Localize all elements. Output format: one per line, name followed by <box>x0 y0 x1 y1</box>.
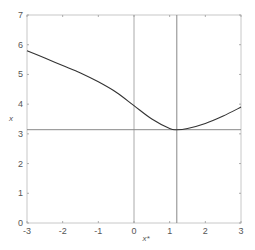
y-tick-label: 4 <box>18 99 23 109</box>
y-tick-label: 1 <box>18 188 23 198</box>
y-tick-label: 0 <box>18 218 23 228</box>
x-tick-label: 2 <box>203 226 208 236</box>
y-tick-label: 2 <box>18 159 23 169</box>
x-tick-label: -3 <box>23 226 31 236</box>
x-tick-label: 1 <box>167 226 172 236</box>
y-tick-label: 3 <box>18 129 23 139</box>
y-axis-label: x <box>8 114 14 123</box>
x-tick-label: -1 <box>94 226 102 236</box>
x-axis-label: x* <box>141 234 150 243</box>
x-tick-label: -2 <box>59 226 67 236</box>
x-tick-label: 0 <box>131 226 136 236</box>
line-chart: -3-2-10123 01234567 x* x <box>0 0 255 250</box>
y-tick-label: 5 <box>18 69 23 79</box>
x-tick-label: 3 <box>238 226 243 236</box>
y-tick-label: 6 <box>18 40 23 50</box>
y-tick-label: 7 <box>18 10 23 20</box>
